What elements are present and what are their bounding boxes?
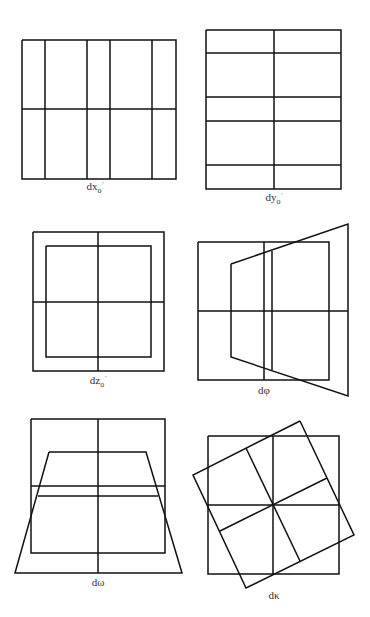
orientation-parameter-diagram — [0, 0, 370, 617]
label-base: dω — [92, 576, 105, 588]
label-sup: ' — [105, 375, 106, 381]
label-base: dκ — [268, 589, 279, 601]
label-base: dz — [90, 374, 100, 386]
panel-label-domega: dω — [92, 577, 105, 588]
panel-dy — [206, 30, 341, 189]
label-base: dx — [86, 180, 97, 192]
panel-label-dkappa: dκ — [268, 590, 279, 601]
label-sub: o — [100, 380, 104, 389]
panel-dkappa — [193, 421, 354, 588]
panel-dz — [33, 232, 164, 371]
label-sub: o — [276, 197, 280, 206]
frame-outline — [231, 224, 348, 396]
panel-label-dx: dxo' — [86, 181, 103, 195]
panel-domega — [15, 419, 182, 573]
label-sup: ' — [102, 181, 103, 187]
label-sup: ' — [281, 192, 282, 198]
label-base: dφ — [258, 384, 270, 396]
label-sub: o — [97, 186, 101, 195]
figure-canvas — [0, 0, 370, 617]
panel-label-dy: dyo' — [265, 192, 282, 206]
label-base: dy — [265, 191, 276, 203]
panel-label-dz: dzo' — [90, 375, 106, 389]
panel-dphi — [198, 224, 348, 396]
panel-label-dphi: dφ — [258, 385, 270, 396]
panel-dx — [22, 40, 176, 179]
